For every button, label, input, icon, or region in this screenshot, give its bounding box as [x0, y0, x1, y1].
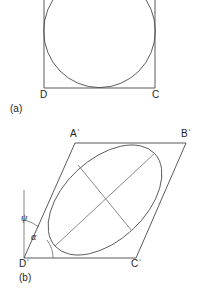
- minor-axis: [78, 165, 132, 231]
- caption-a: (a): [10, 104, 22, 114]
- vertex-label-b-prime: Bˈ: [181, 129, 191, 139]
- vertex-label-a-prime: Aˈ: [70, 129, 80, 139]
- angle-label-alpha: α: [31, 232, 36, 242]
- caption-b: (b): [19, 273, 31, 283]
- square: [44, 0, 155, 88]
- parallelogram: [24, 143, 186, 258]
- angle-label-psi: ψ: [21, 213, 27, 223]
- figure-canvas: [0, 0, 200, 292]
- panel-b-group: [24, 124, 186, 276]
- vertex-label-d: D: [40, 90, 47, 100]
- major-axis: [55, 153, 155, 246]
- vertex-label-c-prime: Cˈ: [131, 259, 142, 269]
- inscribed-circle: [44, 0, 156, 88]
- vertex-label-d-prime: Dˈ: [19, 259, 30, 269]
- vertex-label-c: C: [152, 90, 159, 100]
- figure-root: D C (a) Aˈ Bˈ Dˈ Cˈ ψ α (b): [0, 0, 200, 292]
- panel-a-group: [44, 0, 156, 88]
